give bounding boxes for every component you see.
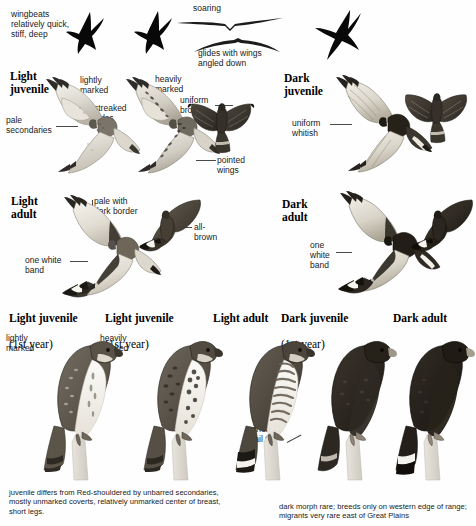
flight-dark-juvenile-uniform-brown [188, 92, 254, 154]
heading-dark-adult: Dark adult [282, 198, 308, 223]
soaring-label: soaring [193, 3, 221, 13]
caption-left: juvenile differs from Red-shouldered by … [9, 488, 224, 516]
caption-right: dark morph rare; breeds only on western … [279, 502, 469, 521]
perched-dark-adult-tail-band [396, 453, 415, 475]
perched-dark-adult [390, 332, 476, 482]
perched-title-3: Dark juvenile [281, 312, 348, 324]
perched-dark-juvenile [312, 332, 398, 482]
perched-header-4: Dark adult [393, 299, 447, 325]
flight-dark-juvenile-small [402, 84, 470, 146]
flight-dark-adult-upperside [400, 198, 476, 270]
flight-light-adult-upperside [128, 198, 206, 270]
perched-light-adult [230, 330, 316, 482]
heading-light-adult: Light adult [11, 195, 38, 220]
perched-title-0: Light juvenile [9, 312, 78, 324]
heading-dark-juvenile: Dark juvenile [284, 72, 323, 97]
label-uniform-whitish: uniform whitish [292, 118, 320, 138]
silhouette-flapping-1 [60, 8, 118, 60]
label-perched-lightly-marked: lightly marked [6, 333, 34, 353]
silhouette-soaring-flat [175, 16, 285, 32]
glide-label: glides with wings angled down [198, 48, 262, 68]
perched-title-1: Light juvenile [105, 312, 174, 324]
perched-tail-white-band [236, 449, 255, 473]
perched-title-4: Dark adult [393, 312, 447, 324]
perched-light-juvenile-lightly [38, 330, 124, 482]
label-one-white-band-right: one white band [310, 240, 330, 270]
silhouette-soaring-large [293, 8, 371, 66]
perched-title-2: Light adult [213, 312, 268, 324]
perched-light-juvenile-heavily [138, 330, 224, 482]
perched-header-2: Light adult [213, 299, 268, 325]
